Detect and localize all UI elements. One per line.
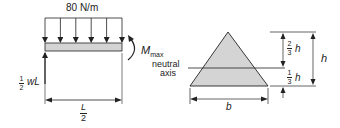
height-label: h (321, 53, 327, 64)
upper-dim-num: 2 (288, 40, 292, 47)
load-label: 80 N/m (66, 3, 98, 13)
height-dimensions (270, 32, 316, 98)
triangle-section (188, 32, 285, 86)
upper-dim-fraction: 2 3 (287, 40, 292, 56)
base-label: b (226, 102, 232, 112)
upper-dim-den: 3 (288, 49, 292, 56)
beam (45, 43, 122, 51)
reaction-fraction: 1 2 (19, 75, 24, 91)
length-num: L (81, 103, 86, 112)
reaction-label: wL (27, 77, 40, 87)
lower-dim-den: 3 (288, 78, 292, 85)
moment-label: Mmax (141, 45, 163, 58)
upper-dim-var: h (295, 44, 301, 54)
neutral-axis-label-2: axis (160, 69, 176, 78)
distributed-load-arrows (45, 18, 122, 42)
reaction-fraction-den: 2 (20, 84, 24, 91)
moment-subscript: max (150, 51, 163, 58)
length-label: L 2 (80, 103, 87, 123)
moment-symbol: M (141, 44, 150, 56)
reaction-fraction-num: 1 (20, 75, 24, 82)
lower-dim-fraction: 1 3 (287, 69, 292, 85)
lower-dim-var: h (295, 73, 301, 83)
reaction-arrow (45, 53, 122, 104)
lower-dim-num: 1 (288, 69, 292, 76)
moment-arrow (128, 35, 135, 60)
length-den: 2 (81, 114, 86, 123)
